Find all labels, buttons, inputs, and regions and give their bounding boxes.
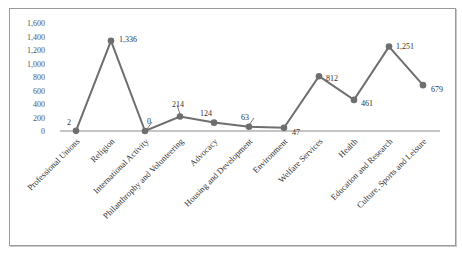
data-point-marker	[211, 119, 218, 126]
y-tick-label: 1,200	[27, 46, 45, 55]
data-value-label: 63	[241, 113, 249, 122]
data-value-label: 461	[361, 99, 373, 108]
y-tick-label: 1,600	[27, 19, 45, 28]
line-chart: 02004006008001,0001,2001,4001,600 21,336…	[0, 0, 462, 253]
data-value-label: 47	[292, 128, 300, 137]
data-value-label: 124	[200, 109, 212, 118]
data-value-label: 2	[67, 118, 71, 127]
x-category-label: Culture, Sports and Leisure	[355, 136, 429, 210]
x-category-label: Housing and Development	[182, 136, 255, 209]
data-point-marker	[281, 125, 288, 132]
y-tick-label: 0	[41, 127, 45, 136]
data-value-label: 812	[326, 74, 338, 83]
x-category-label: Advocacy	[188, 136, 220, 168]
data-point-marker	[420, 82, 427, 89]
x-category-label: Professional Unions	[25, 136, 82, 193]
data-value-label: 679	[431, 85, 443, 94]
x-category-label: Health	[336, 136, 360, 160]
data-point-marker	[108, 38, 115, 45]
y-axis-labels: 02004006008001,0001,2001,4001,600	[27, 19, 45, 136]
y-tick-label: 200	[33, 114, 45, 123]
label-leader-line	[249, 118, 254, 125]
y-tick-label: 600	[33, 87, 45, 96]
y-tick-label: 1,400	[27, 33, 45, 42]
data-point-marker	[177, 113, 184, 120]
data-point-marker	[351, 97, 358, 104]
y-tick-label: 400	[33, 100, 45, 109]
data-value-label: 1,336	[119, 35, 137, 44]
x-category-label: Education and Research	[329, 136, 395, 202]
y-tick-label: 800	[33, 73, 45, 82]
data-point-marker	[386, 43, 393, 50]
data-line	[76, 41, 423, 131]
data-value-label: 1,251	[396, 42, 414, 51]
x-category-label: Religion	[88, 136, 116, 164]
data-markers	[73, 38, 427, 135]
y-tick-label: 1,000	[27, 60, 45, 69]
data-point-marker	[73, 128, 80, 135]
x-axis-category-labels: Professional UnionsReligionInternational…	[25, 136, 428, 221]
data-point-marker	[316, 73, 323, 80]
